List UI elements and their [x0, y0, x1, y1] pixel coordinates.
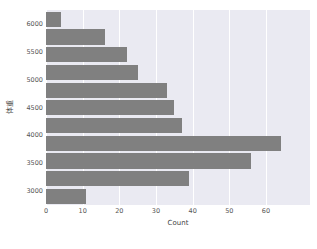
- bar: [46, 153, 251, 168]
- bar: [46, 65, 138, 80]
- x-tick-label: 40: [189, 207, 197, 215]
- x-tick-label: 30: [152, 207, 160, 215]
- x-tick-label: 50: [225, 207, 233, 215]
- bar: [46, 118, 182, 133]
- y-tick-label: 4000: [26, 131, 46, 139]
- plot-area: [46, 10, 310, 205]
- x-tick-label: 0: [44, 207, 48, 215]
- y-tick-label: 5500: [26, 48, 46, 56]
- y-tick-label: 6000: [26, 20, 46, 28]
- bar: [46, 136, 281, 151]
- y-tick-label: 5000: [26, 76, 46, 84]
- bar: [46, 47, 127, 62]
- bar: [46, 29, 105, 44]
- bar: [46, 189, 86, 204]
- x-axis-label: Count: [46, 219, 310, 227]
- bar: [46, 171, 189, 186]
- y-tick-label: 4500: [26, 104, 46, 112]
- y-tick-label: 3500: [26, 159, 46, 167]
- bar: [46, 12, 61, 27]
- x-tick-label: 60: [262, 207, 270, 215]
- y-tick-label: 3000: [26, 187, 46, 195]
- bar: [46, 83, 167, 98]
- x-tick-label: 10: [79, 207, 87, 215]
- y-axis-label: 体重: [4, 100, 14, 114]
- x-tick-label: 20: [115, 207, 123, 215]
- bar-chart-figure: 0102030405060 30003500400045005000550060…: [0, 0, 317, 249]
- bars-group: [46, 10, 310, 205]
- bar: [46, 100, 174, 115]
